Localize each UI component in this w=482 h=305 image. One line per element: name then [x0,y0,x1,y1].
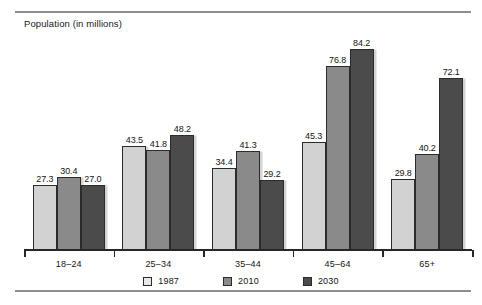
bar-column: 27.3 [33,30,57,250]
bar[interactable] [81,185,105,250]
bar[interactable] [391,179,415,250]
bar-column: 41.3 [236,30,260,250]
bar-group: 45.376.884.2 [302,30,374,250]
top-divider-rule [15,11,471,13]
legend-item-2030[interactable]: 2030 [303,276,339,286]
bar[interactable] [260,180,284,250]
axis-tick-mark [472,250,474,257]
population-bar-chart-figure: Population (in millions) 27.330.427.043.… [0,0,482,305]
legend-label-1987: 1987 [158,276,179,286]
bar-value-label: 27.0 [84,174,101,184]
category-label: 18–24 [56,259,82,269]
axis-tick-mark [293,250,295,257]
bar-value-label: 30.4 [60,166,77,176]
bar-value-label: 27.3 [36,174,53,184]
bar-value-label: 41.3 [239,140,256,150]
bar[interactable] [212,168,236,250]
bar-column: 27.0 [81,30,105,250]
bar-value-label: 72.1 [443,67,460,77]
axis-tick-mark [24,250,26,257]
legend-label-2010: 2010 [238,276,259,286]
bar[interactable] [122,146,146,250]
bar-value-label: 34.4 [215,157,232,167]
bar-group: 27.330.427.0 [33,30,105,250]
bar-value-label: 41.8 [150,139,167,149]
bar-column: 30.4 [57,30,81,250]
chart-legend: 1987 2010 2030 [0,276,482,286]
bar-column: 34.4 [212,30,236,250]
legend-swatch-icon-1987 [143,277,152,286]
category-label: 65+ [419,259,435,269]
axis-tick-mark [382,250,384,257]
bar[interactable] [236,151,260,250]
bar[interactable] [33,185,57,250]
axis-tick-mark [114,250,116,257]
bottom-divider-rule [15,290,471,292]
bar-column: 45.3 [302,30,326,250]
bar-value-label: 48.2 [174,124,191,134]
bar-column: 40.2 [415,30,439,250]
bar[interactable] [350,49,374,250]
bar[interactable] [415,154,439,250]
legend-item-1987[interactable]: 1987 [143,276,179,286]
category-label: 45–64 [325,259,351,269]
bar[interactable] [439,78,463,250]
legend-item-2010[interactable]: 2010 [223,276,259,286]
bar-value-label: 45.3 [305,131,322,141]
legend-label-2030: 2030 [318,276,339,286]
axis-tick-mark [203,250,205,257]
bar-value-label: 29.8 [395,168,412,178]
bar-column: 48.2 [170,30,194,250]
bar-column: 84.2 [350,30,374,250]
bar[interactable] [57,177,81,250]
bar-group: 34.441.329.2 [212,30,284,250]
bar-group: 29.840.272.1 [391,30,463,250]
bar-column: 29.8 [391,30,415,250]
chart-title: Population (in millions) [24,18,122,29]
bar[interactable] [326,66,350,250]
bar[interactable] [146,150,170,250]
bar-column: 76.8 [326,30,350,250]
bar-value-label: 29.2 [263,169,280,179]
bar-group: 43.541.848.2 [122,30,194,250]
bar-value-label: 84.2 [353,38,370,48]
bar-column: 43.5 [122,30,146,250]
category-label: 25–34 [145,259,171,269]
bar-value-label: 40.2 [419,143,436,153]
bar-column: 29.2 [260,30,284,250]
bar-column: 72.1 [439,30,463,250]
bar[interactable] [302,142,326,250]
bar-value-label: 76.8 [329,55,346,65]
plot-area: 27.330.427.043.541.848.234.441.329.245.3… [24,30,472,250]
bar-column: 41.8 [146,30,170,250]
x-axis-line [24,249,472,251]
bar[interactable] [170,135,194,250]
bar-value-label: 43.5 [126,135,143,145]
legend-swatch-icon-2010 [223,277,232,286]
legend-swatch-icon-2030 [303,277,312,286]
category-label: 35–44 [235,259,261,269]
